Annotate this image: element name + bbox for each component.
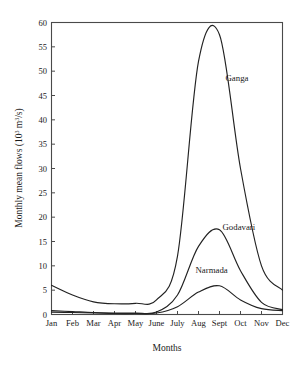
- chart-figure: 051015202530354045505560 JanFebMarAprMay…: [0, 0, 295, 368]
- x-tick-label: Oct: [234, 318, 247, 328]
- x-tick-label: June: [149, 318, 165, 328]
- y-tick-label: 25: [39, 188, 48, 198]
- y-tick-label: 40: [39, 115, 48, 125]
- y-tick-label: 35: [39, 139, 48, 149]
- y-tick-label: 10: [39, 261, 48, 271]
- x-axis-title: Months: [152, 343, 181, 353]
- x-tick-label: Nov: [254, 318, 270, 328]
- x-tick-label: Aug: [191, 318, 207, 328]
- y-tick-label: 55: [39, 42, 48, 52]
- y-axis-title: Monthly mean flows (103 m3/s): [14, 108, 25, 227]
- monthly-mean-flows-line-chart: 051015202530354045505560 JanFebMarAprMay…: [0, 0, 295, 368]
- series-label-narmada: Narmada: [196, 265, 228, 275]
- y-tick-label: 50: [39, 66, 48, 76]
- series-label-ganga: Ganga: [226, 73, 249, 83]
- y-tick-label: 20: [39, 212, 48, 222]
- y-tick-label: 60: [39, 18, 48, 28]
- x-tick-label: July: [170, 318, 185, 328]
- x-tick-label: May: [128, 318, 144, 328]
- x-tick-label: Dec: [276, 318, 290, 328]
- y-tick-label: 45: [39, 91, 48, 101]
- y-tick-label: 5: [43, 285, 47, 295]
- x-tick-label: Apr: [108, 318, 122, 328]
- y-tick-label: 15: [39, 237, 48, 247]
- y-tick-label: 30: [39, 164, 48, 174]
- series-label-godavari: Godavari: [223, 222, 256, 232]
- x-tick-label: Mar: [86, 318, 100, 328]
- x-tick-label: Sept: [212, 318, 228, 328]
- x-tick-label: Feb: [66, 318, 79, 328]
- x-tick-label: Jan: [46, 318, 58, 328]
